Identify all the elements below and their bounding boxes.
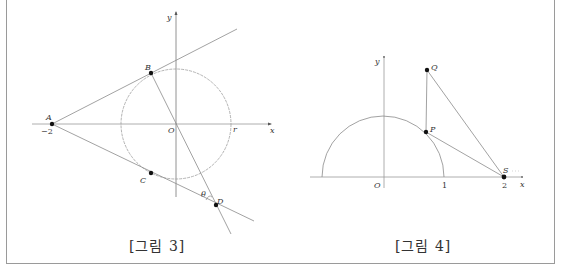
figure-3-caption: [그림 3] [129,235,185,255]
point-S [502,175,507,180]
origin-label: O [374,181,381,190]
point-Q-label: Q [431,63,438,72]
point-C-label: C [140,176,146,185]
y-axis-label: y [374,57,380,66]
segment-PQ [426,70,427,132]
point-Q [425,68,429,72]
x-axis-end-dot-icon [521,176,523,178]
point-A-coord-label: −2 [41,127,53,136]
figure-4-caption: [그림 4] [395,235,451,255]
figure-4: y x O 1 2 Q P S [310,56,525,190]
y-axis-end-dot-icon [383,56,385,58]
x-axis-label: x [270,126,275,135]
figure-3: y x O A −2 B C D r θ [32,11,275,234]
segment-QS [427,70,504,177]
upper-semicircle [322,116,444,177]
theta-label: θ [201,190,206,199]
point-A-label: A [45,113,52,122]
line-AB-tangent [52,29,237,124]
tick-2-label: 2 [502,181,507,190]
y-axis-arrow-icon [175,11,178,15]
point-P-label: P [429,125,436,134]
point-A [50,122,54,126]
point-C [149,171,153,175]
point-B-label: B [144,63,151,72]
segment-PS [426,132,504,177]
x-axis-label: x [520,180,525,189]
tick-1-label: 1 [442,181,447,190]
y-axis-label: y [166,13,172,22]
line-BOD [151,73,231,234]
origin-label: O [168,126,175,135]
point-P [424,130,428,134]
radius-r-label: r [233,125,238,134]
point-S-label: S [503,166,509,175]
figures-canvas: y x O A −2 B C D r θ y x O 1 2 Q P S [0,0,567,278]
point-D-label: D [216,197,224,206]
